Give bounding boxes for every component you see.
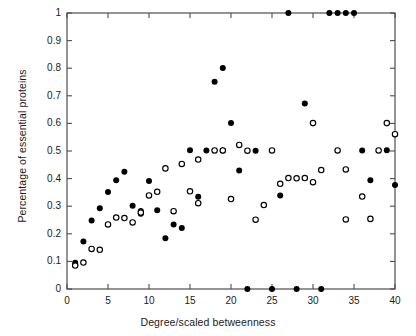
data-point-open (278, 181, 283, 186)
data-point-filled (343, 10, 349, 16)
data-point-filled (80, 239, 86, 245)
data-point-open (302, 175, 307, 180)
x-tick-label: 30 (293, 295, 333, 306)
data-point-open (163, 166, 168, 171)
data-point-filled (179, 225, 185, 231)
data-point-open (245, 148, 250, 153)
data-point-open (138, 210, 143, 215)
data-point-filled (203, 147, 209, 153)
data-point-open (146, 193, 151, 198)
x-tick-label: 15 (170, 295, 210, 306)
x-tick-label: 0 (47, 295, 87, 306)
data-point-open (286, 175, 291, 180)
data-point-open (360, 194, 365, 199)
x-tick-label: 25 (252, 295, 292, 306)
series-filled (72, 10, 398, 292)
data-point-filled (105, 189, 111, 195)
data-point-filled (146, 178, 152, 184)
data-point-filled (171, 221, 177, 227)
data-point-filled (154, 207, 160, 213)
data-point-open (171, 208, 176, 213)
data-point-open (97, 247, 102, 252)
data-point-filled (121, 169, 127, 175)
data-point-open (187, 189, 192, 194)
x-tick-label: 40 (375, 295, 415, 306)
x-tick-label: 10 (129, 295, 169, 306)
data-point-filled (220, 65, 226, 71)
data-point-open (392, 131, 397, 136)
data-point-open (269, 148, 274, 153)
data-point-filled (253, 148, 259, 154)
data-point-open (376, 148, 381, 153)
y-tick-label: 0.3 (21, 200, 61, 211)
data-point-open (114, 215, 119, 220)
data-point-open (155, 189, 160, 194)
data-point-open (261, 202, 266, 207)
y-tick-label: 0.1 (21, 255, 61, 266)
plot-canvas (0, 0, 416, 336)
plot-frame (67, 13, 395, 289)
x-tick-label: 20 (211, 295, 251, 306)
data-point-open (310, 179, 315, 184)
data-point-filled (130, 203, 136, 209)
data-point-open (122, 215, 127, 220)
data-point-filled (195, 194, 201, 200)
data-point-open (179, 161, 184, 166)
data-point-open (384, 120, 389, 125)
data-point-open (130, 220, 135, 225)
y-tick-label: 0.4 (21, 173, 61, 184)
data-point-open (73, 263, 78, 268)
data-point-open (105, 222, 110, 227)
data-point-filled (326, 10, 332, 16)
data-point-open (81, 260, 86, 265)
series-open (73, 120, 398, 268)
data-point-filled (228, 120, 234, 126)
data-point-filled (212, 79, 218, 85)
data-point-filled (302, 101, 308, 107)
y-tick-label: 0.2 (21, 228, 61, 239)
data-point-filled (97, 205, 103, 211)
y-tick-label: 0.5 (21, 145, 61, 156)
data-point-open (228, 196, 233, 201)
data-point-open (89, 246, 94, 251)
data-point-filled (294, 286, 300, 292)
data-point-open (294, 176, 299, 181)
data-point-filled (187, 147, 193, 153)
scatter-plot-figure: Percentage of essential proteins Degree/… (0, 0, 416, 336)
data-point-open (237, 142, 242, 147)
data-point-open (335, 148, 340, 153)
data-point-filled (384, 147, 390, 153)
y-tick-label: 0.8 (21, 62, 61, 73)
y-tick-label: 1 (21, 7, 61, 18)
data-point-filled (113, 177, 119, 183)
y-tick-label: 0.6 (21, 117, 61, 128)
x-tick-label: 35 (334, 295, 374, 306)
y-tick-label: 0.7 (21, 90, 61, 101)
data-point-filled (335, 10, 341, 16)
data-point-filled (162, 235, 168, 241)
data-point-filled (359, 147, 365, 153)
data-point-open (319, 167, 324, 172)
data-point-filled (351, 10, 357, 16)
data-point-filled (392, 182, 398, 188)
data-point-filled (285, 10, 291, 16)
data-point-open (368, 216, 373, 221)
data-point-open (310, 120, 315, 125)
data-point-filled (318, 286, 324, 292)
data-point-filled (236, 168, 242, 174)
data-point-filled (244, 286, 250, 292)
y-tick-label: 0.9 (21, 35, 61, 46)
data-point-open (253, 217, 258, 222)
data-point-open (220, 148, 225, 153)
x-tick-label: 5 (88, 295, 128, 306)
data-point-filled (277, 192, 283, 198)
data-point-filled (269, 286, 275, 292)
data-point-open (196, 200, 201, 205)
data-point-open (196, 157, 201, 162)
data-point-open (343, 217, 348, 222)
data-point-open (212, 148, 217, 153)
data-point-filled (89, 218, 95, 224)
data-point-filled (367, 177, 373, 183)
y-tick-label: 0 (21, 283, 61, 294)
data-point-open (343, 167, 348, 172)
